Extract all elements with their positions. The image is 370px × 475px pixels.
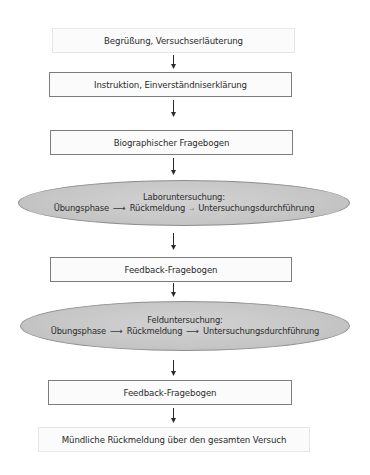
step-label: Feedback-Fragebogen — [124, 388, 217, 398]
step-label: Feedback-Fragebogen — [125, 265, 218, 275]
arrow-right-icon: ⟶ — [113, 203, 126, 214]
phase-durchfuehrung: Untersuchungsdurchführung — [198, 203, 314, 214]
arrow-right-icon: ⟶ — [186, 326, 199, 337]
phase-uebungsphase: Übungsphase — [51, 326, 106, 337]
step-label: Mündliche Rückmeldung über den gesamten … — [62, 435, 287, 445]
phase-rueckmeldung: Rückmeldung — [130, 203, 185, 214]
phase-uebungsphase: Übungsphase — [54, 203, 109, 214]
step-label: Instruktion, Einverständniserklärung — [94, 80, 247, 90]
step-label: Biographischer Fragebogen — [114, 138, 230, 148]
phase-durchfuehrung: Untersuchungsdurchführung — [203, 326, 319, 337]
phase-rueckmeldung: Rückmeldung — [127, 326, 182, 337]
step-fragebogen-box: Biographischer Fragebogen — [50, 130, 293, 155]
arrow-down-icon — [169, 55, 178, 70]
laboruntersuchung-ellipse: Laboruntersuchung: Übungsphase ⟶ Rückmel… — [18, 180, 350, 226]
step-begruessung-box: Begrüßung, Versuchserläuterung — [52, 28, 295, 53]
arrow-right-icon: → — [189, 203, 194, 214]
arrow-down-icon — [169, 100, 178, 118]
phase-sequence: Übungsphase ⟶ Rückmeldung → Untersuchung… — [54, 203, 315, 214]
arrow-down-icon — [169, 233, 178, 251]
step-instruktion-box: Instruktion, Einverständniserklärung — [49, 72, 292, 97]
arrow-down-icon — [169, 283, 178, 298]
step-feedback-box-2: Feedback-Fragebogen — [48, 380, 292, 405]
ellipse-title: Felduntersuchung: — [147, 315, 222, 326]
phase-sequence: Übungsphase ⟶ Rückmeldung ⟶ Untersuchung… — [51, 326, 320, 337]
felduntersuchung-ellipse: Felduntersuchung: Übungsphase ⟶ Rückmeld… — [20, 301, 350, 351]
arrow-down-icon — [169, 360, 178, 377]
arrow-down-icon — [169, 158, 178, 176]
arrow-right-icon: ⟶ — [110, 326, 123, 337]
step-muendliche-rueckmeldung-box: Mündliche Rückmeldung über den gesamten … — [38, 427, 310, 452]
arrow-down-icon — [169, 408, 178, 424]
step-label: Begrüßung, Versuchserläuterung — [104, 36, 243, 46]
step-feedback-box-1: Feedback-Fragebogen — [50, 257, 292, 282]
ellipse-title: Laboruntersuchung: — [143, 192, 225, 203]
